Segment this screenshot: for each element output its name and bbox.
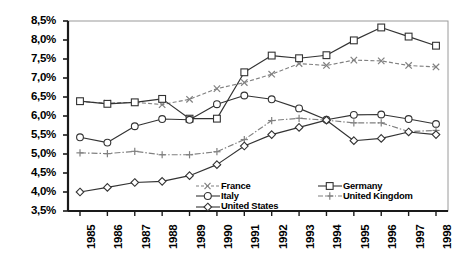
- x-tick-label: 1989: [196, 225, 208, 249]
- x-tick-label: 1993: [305, 225, 317, 249]
- legend-marker-square-icon: [318, 181, 342, 191]
- legend-marker-diamond-icon: [196, 202, 220, 212]
- x-tick-label: 1988: [168, 225, 180, 249]
- x-tick-label: 1991: [250, 225, 262, 249]
- x-tick-label: 1987: [141, 225, 153, 249]
- legend-row: United States: [196, 201, 448, 211]
- x-tick-label: 1986: [113, 225, 125, 249]
- x-axis-tick-labels: 1985198619871988198919901991199219931994…: [0, 0, 469, 265]
- legend-item-united-kingdom: United Kingdom: [318, 191, 413, 201]
- legend-label-united-states: United States: [220, 201, 278, 211]
- legend-item-france: France: [196, 181, 318, 191]
- x-tick-label: 1994: [332, 225, 344, 249]
- chart-legend: France Germany Italy: [196, 181, 448, 212]
- legend-marker-plus-icon: [318, 191, 342, 201]
- chart-container: 8,5%8,0%7,5%7,0%6,5%6,0%5,5%5,0%4,5%4,0%…: [0, 0, 469, 265]
- x-tick-label: 1995: [360, 225, 372, 249]
- x-tick-label: 1997: [415, 225, 427, 249]
- legend-marker-x-cross-icon: [196, 181, 220, 191]
- legend-item-united-states: United States: [196, 201, 318, 211]
- x-tick-label: 1996: [387, 225, 399, 249]
- x-tick-label: 1990: [223, 225, 235, 249]
- x-tick-label: 1998: [442, 225, 454, 249]
- x-tick-label: 1992: [278, 225, 290, 249]
- legend-label-united-kingdom: United Kingdom: [342, 191, 413, 201]
- x-tick-label: 1985: [86, 225, 98, 249]
- legend-marker-circle-icon: [196, 191, 220, 201]
